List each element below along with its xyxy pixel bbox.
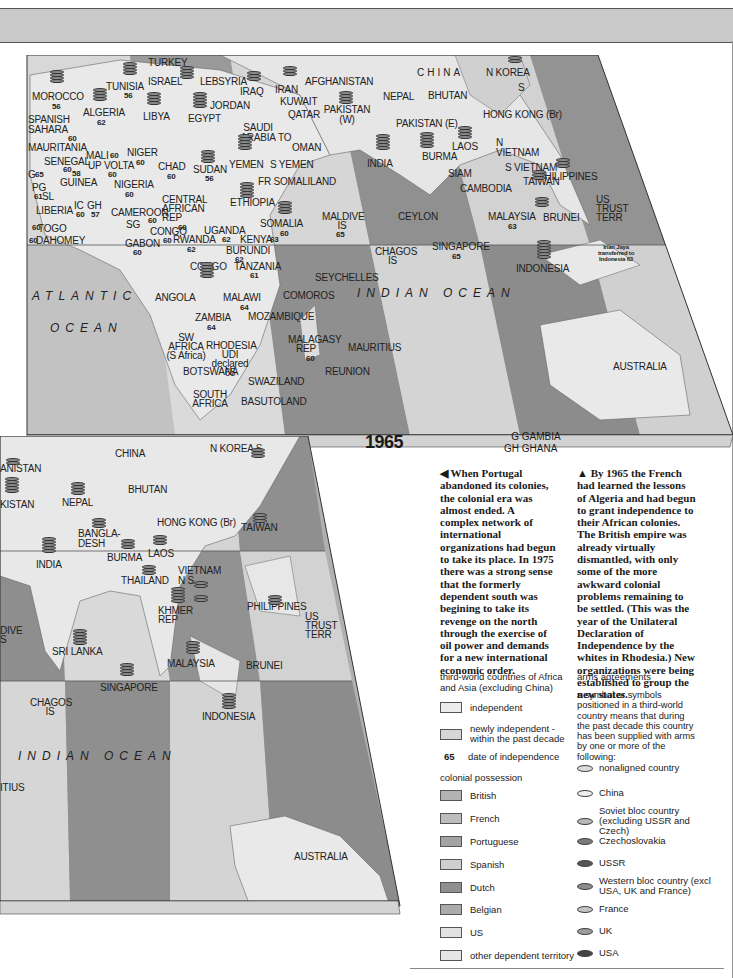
country-label: IRAN bbox=[275, 85, 298, 95]
abbr-row: G GAMBIA bbox=[503, 431, 633, 443]
ocean-label: ATLANTIC bbox=[32, 291, 137, 301]
independence-year: 64 bbox=[207, 324, 216, 332]
legend-label: date of independence bbox=[468, 752, 559, 762]
france-symbol-icon bbox=[577, 906, 593, 913]
independence-year: 60 bbox=[29, 237, 38, 245]
legend-label: Czechoslovakia bbox=[599, 836, 666, 846]
legend-date: 65 date of independence bbox=[444, 752, 559, 762]
independence-year: 60 bbox=[108, 171, 117, 179]
arms-symbol-stack bbox=[222, 694, 236, 709]
arms-symbol-stack bbox=[194, 582, 208, 588]
independence-year: 65 bbox=[452, 253, 461, 261]
country-label: ALGERIA bbox=[83, 108, 125, 118]
abbr-row: IC IVORY COAST bbox=[503, 454, 633, 455]
arms-symbol-stack bbox=[240, 183, 254, 198]
soviet-bloc-symbol-icon bbox=[577, 818, 593, 825]
arms-symbol-stack bbox=[251, 449, 265, 458]
country-label: NEPAL bbox=[62, 498, 93, 508]
country-label: US TRUST TERR bbox=[596, 195, 626, 222]
legend-label: USSR bbox=[599, 858, 625, 868]
arms-symbol-stack bbox=[120, 664, 134, 676]
swatch-british bbox=[440, 790, 462, 801]
arms-symbol-stack bbox=[532, 171, 546, 180]
country-label: SEYCHELLES bbox=[315, 273, 379, 283]
independence-year: 61 bbox=[34, 193, 43, 201]
independence-year: 65 bbox=[336, 231, 345, 239]
country-label: FR SOMALILAND bbox=[258, 177, 336, 187]
country-label: MALAWI bbox=[223, 293, 261, 303]
legend-label: British bbox=[470, 791, 496, 801]
country-label: MALAYSIA bbox=[488, 212, 536, 222]
country-label: CEYLON bbox=[398, 212, 438, 222]
country-label: BASUTOLAND bbox=[241, 397, 307, 407]
arms-symbol-stack bbox=[201, 151, 215, 163]
caption-left: ◀ When Portugal abandoned its colonies, … bbox=[440, 467, 556, 676]
country-label: KHMER REP bbox=[158, 606, 188, 624]
country-label: PAKISTAN (W) bbox=[322, 105, 372, 125]
western-bloc-symbol-icon bbox=[577, 883, 593, 890]
date-sample: 65 bbox=[444, 752, 468, 762]
country-label: N KOREA bbox=[486, 68, 530, 78]
country-label: ANISTAN bbox=[0, 464, 41, 474]
legend-us: US bbox=[440, 927, 483, 938]
legend-title-countries: third-world countries of Africa and Asia… bbox=[440, 671, 570, 693]
country-label: BHUTAN bbox=[128, 485, 167, 495]
independence-year: 60 bbox=[32, 224, 41, 232]
arms-symbol-stack bbox=[6, 459, 20, 465]
independence-year: 60 bbox=[63, 166, 72, 174]
country-label: INDIA bbox=[367, 159, 393, 169]
arms-symbol-stack bbox=[121, 540, 135, 549]
country-label: INDIA bbox=[36, 560, 62, 570]
country-label: SW AFRICA (S Africa) bbox=[166, 333, 206, 360]
independence-year: 62 bbox=[187, 246, 196, 254]
country-label: RWANDA bbox=[173, 235, 216, 245]
arms-symbol-stack bbox=[247, 72, 261, 81]
country-label: SINGAPORE bbox=[100, 683, 158, 693]
swatch-other bbox=[440, 950, 462, 961]
arms-symbol-stack bbox=[458, 127, 472, 139]
legend-independent: independent bbox=[440, 702, 522, 713]
independence-year: 60 bbox=[136, 159, 145, 167]
country-label: DAHOMEY bbox=[36, 236, 85, 246]
arms-symbol-stack bbox=[93, 89, 107, 101]
arms-symbol-stack bbox=[73, 630, 87, 645]
swatch-french bbox=[440, 813, 462, 824]
abbr-row: GH GHANA bbox=[503, 443, 633, 455]
arms-symbol-stack bbox=[194, 596, 208, 602]
arms-symbol-stack bbox=[42, 538, 56, 553]
legend-dutch: Dutch bbox=[440, 882, 495, 893]
country-label: ITIUS bbox=[0, 783, 25, 793]
independence-year: 56 bbox=[205, 175, 214, 183]
country-label: REUNION bbox=[325, 367, 370, 377]
independence-year: 60 bbox=[280, 230, 289, 238]
independence-year: 62 bbox=[97, 119, 106, 127]
legend-newly-independent: newly independent - within the past deca… bbox=[440, 724, 570, 744]
map-1965: TURKEY ISRAEL LEB SYRIA IRAQ IRAN AFGHAN… bbox=[0, 55, 733, 455]
nonaligned-symbol-icon bbox=[577, 765, 593, 772]
czech-symbol-icon bbox=[577, 838, 593, 845]
legend-china: China bbox=[577, 788, 624, 798]
arms-symbol-stack bbox=[171, 588, 185, 603]
header-band bbox=[0, 8, 733, 43]
arms-symbol-stack bbox=[186, 642, 200, 654]
country-label: SRI LANKA bbox=[52, 647, 102, 657]
country-label: SINGAPORE bbox=[432, 242, 490, 252]
country-label: BURUNDI bbox=[226, 246, 270, 256]
swatch-us bbox=[440, 927, 462, 938]
country-label: LAOS bbox=[452, 142, 478, 152]
country-label: CAMEROON bbox=[111, 208, 168, 218]
arms-symbol-stack bbox=[278, 202, 292, 214]
country-label: CHAGOS IS bbox=[375, 247, 410, 265]
country-label: CHINA bbox=[417, 68, 463, 78]
country-label: YEMEN bbox=[229, 160, 264, 170]
legend-usa: USA bbox=[577, 948, 619, 958]
swatch-dutch bbox=[440, 882, 462, 893]
country-label: TOGO bbox=[38, 224, 66, 234]
legend-label: Western bloc country (excl USA, UK and F… bbox=[599, 876, 714, 896]
country-label: MALAYSIA bbox=[167, 659, 215, 669]
country-label: S bbox=[518, 83, 524, 93]
country-label: ISRAEL bbox=[148, 77, 182, 87]
country-label: N VIETNAM bbox=[496, 138, 546, 158]
country-label: MOROCCO bbox=[32, 92, 84, 102]
legend-french: French bbox=[440, 813, 500, 824]
